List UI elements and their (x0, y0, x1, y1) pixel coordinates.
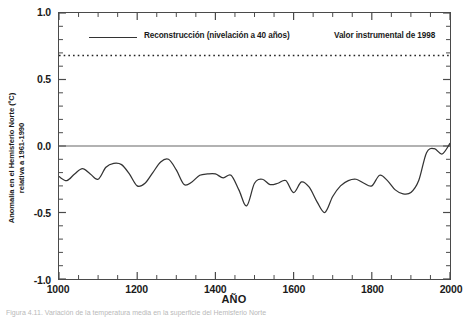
y-tick-label: 0.5 (37, 73, 51, 85)
figure-caption: Figura 4.11. Variación de la temperatura… (6, 308, 466, 317)
legend-instrumental-label: Valor instrumental de 1998 (334, 31, 435, 40)
y-tick-label: 0.0 (37, 140, 51, 152)
plot-svg (59, 13, 450, 279)
reconstruction-series-line (59, 143, 450, 212)
y-axis-tick-labels: 1.00.50.0-0.5-1.0 (0, 0, 58, 317)
plot-area (58, 12, 451, 280)
y-tick-label: -0.5 (34, 207, 51, 219)
chart-legend: Reconstrucción (nivelación a 40 años) Va… (58, 30, 451, 46)
figure-container: Anomalía en el Hemisferio Norte (ºC) rel… (0, 0, 468, 317)
legend-reconstruction-label: Reconstrucción (nivelación a 40 años) (144, 31, 290, 40)
x-axis-title: AÑO (0, 293, 468, 305)
legend-solid-line-sample (89, 37, 137, 38)
y-tick-label: 1.0 (37, 6, 51, 18)
